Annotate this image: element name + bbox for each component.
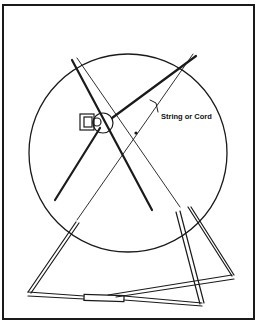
spokes xyxy=(55,54,196,220)
wheel-illustration xyxy=(0,0,261,326)
center-dot xyxy=(134,131,137,134)
string-or-cord-label: String or Cord xyxy=(161,112,212,121)
stand xyxy=(28,207,234,306)
motor xyxy=(80,114,101,130)
